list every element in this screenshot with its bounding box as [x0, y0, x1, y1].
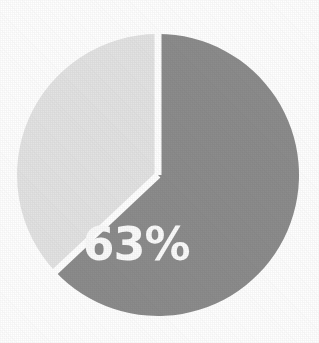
slice-label-major: 63%	[82, 217, 189, 271]
pie-chart-svg: 63%	[0, 0, 319, 343]
pie-chart-figure: 63%	[0, 0, 319, 343]
